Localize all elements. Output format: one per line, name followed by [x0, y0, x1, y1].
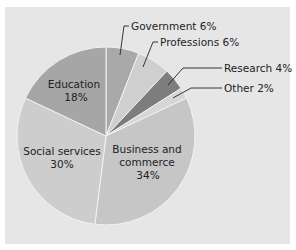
label-business-value: 34% [136, 169, 159, 181]
label-education-name: Education [48, 78, 100, 90]
pie-slices [17, 47, 195, 225]
label-education-value: 18% [64, 91, 87, 103]
label-government: Government 6% [131, 20, 216, 32]
label-professions: Professions 6% [160, 36, 239, 48]
label-social-name: Social services [23, 145, 101, 157]
label-business-name-2: commerce [119, 156, 174, 168]
label-social-value: 30% [50, 158, 73, 170]
label-other: Other 2% [224, 82, 274, 94]
pie-chart: Government 6% Professions 6% Research 4%… [0, 0, 296, 250]
label-research: Research 4% [224, 62, 292, 74]
label-business-name: Business and [112, 143, 181, 155]
